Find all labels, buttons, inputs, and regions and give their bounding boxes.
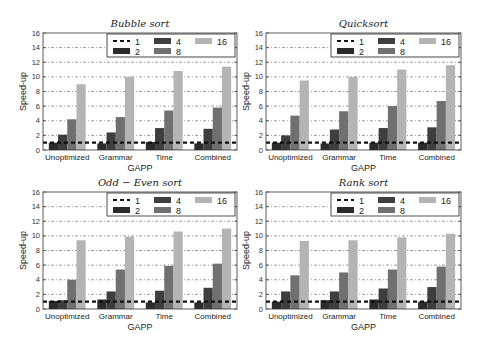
y-tick-label: 2 [259, 131, 263, 140]
bar-8-time [164, 111, 173, 150]
legend-swatch-16 [419, 197, 436, 203]
legend-swatch-4 [378, 38, 395, 44]
y-tick-label: 14 [255, 202, 263, 211]
legend-label-1: 1 [359, 37, 364, 47]
legend: 124816 [107, 193, 235, 216]
legend-swatch-4 [154, 197, 171, 203]
bar-16-combined [446, 65, 455, 150]
chart-panel-1: Bubble sort0246810121416UnoptimizedGramm… [18, 18, 237, 173]
bar-16-grammar [348, 240, 357, 309]
x-axis-label: GAPP [127, 322, 152, 332]
x-tick-label: Unoptimized [268, 312, 312, 321]
x-tick-label: Grammar [322, 312, 356, 321]
legend-label-8: 8 [400, 47, 405, 57]
x-tick-label: Combined [195, 312, 231, 321]
bar-16-combined [222, 67, 231, 150]
legend-swatch-2 [113, 207, 130, 213]
y-tick-label: 6 [259, 102, 263, 111]
chart-panel-3: Odd − Even sort0246810121416UnoptimizedG… [18, 177, 237, 332]
y-tick-label: 12 [32, 58, 40, 67]
x-tick-label: Combined [418, 153, 454, 162]
bar-8-grammar [116, 117, 125, 150]
bar-8-time [388, 270, 397, 309]
x-tick-label: Unoptimized [45, 312, 89, 321]
y-tick-label: 4 [259, 275, 263, 284]
legend-label-16: 16 [441, 196, 451, 206]
x-tick-label: Grammar [99, 312, 133, 321]
legend-label-4: 4 [176, 196, 181, 206]
y-tick-label: 8 [36, 87, 40, 96]
x-tick-label: Grammar [322, 153, 356, 162]
legend-label-2: 2 [135, 206, 140, 216]
x-axis-label: GAPP [127, 163, 152, 173]
legend-label-1: 1 [135, 196, 140, 206]
y-tick-label: 14 [255, 43, 263, 52]
bar-4-grammar [330, 291, 339, 309]
y-tick-label: 2 [36, 131, 40, 140]
y-tick-label: 2 [259, 290, 263, 299]
legend-label-1: 1 [135, 37, 140, 47]
bar-8-grammar [339, 111, 348, 150]
chart-title: Quicksort [339, 18, 389, 29]
legend-label-1: 1 [359, 196, 364, 206]
y-tick-label: 14 [32, 43, 40, 52]
y-tick-label: 16 [255, 29, 263, 38]
legend-swatch-8 [154, 48, 171, 54]
bar-2-combined [194, 302, 203, 309]
x-tick-label: Time [379, 312, 397, 321]
bar-8-unoptimized [67, 119, 76, 150]
bar-16-time [397, 70, 406, 150]
chart-title: Bubble sort [110, 18, 171, 29]
bar-4-time [379, 289, 388, 309]
y-tick-label: 6 [36, 102, 40, 111]
chart-panel-2: Quicksort0246810121416UnoptimizedGrammar… [241, 18, 461, 173]
y-tick-label: 12 [32, 217, 40, 226]
bar-4-grammar [107, 132, 116, 150]
legend-label-8: 8 [400, 206, 405, 216]
bar-4-unoptimized [281, 291, 290, 309]
bar-16-grammar [125, 77, 134, 150]
y-tick-label: 0 [259, 305, 263, 314]
legend-label-2: 2 [359, 47, 364, 57]
bar-16-combined [222, 229, 231, 309]
y-tick-label: 6 [259, 261, 263, 270]
x-axis-label: GAPP [351, 163, 376, 173]
bar-4-combined [427, 127, 436, 150]
legend: 124816 [107, 34, 235, 57]
y-tick-label: 2 [36, 290, 40, 299]
bar-16-time [397, 237, 406, 309]
legend-swatch-16 [195, 38, 212, 44]
bar-16-grammar [125, 237, 134, 309]
bar-4-grammar [330, 130, 339, 150]
y-tick-label: 10 [32, 231, 40, 240]
legend-swatch-2 [113, 48, 130, 54]
y-axis-label: Speed-up [18, 231, 28, 270]
y-tick-label: 10 [255, 231, 263, 240]
bar-8-grammar [116, 270, 125, 309]
legend-swatch-4 [378, 197, 395, 203]
x-tick-label: Unoptimized [268, 153, 312, 162]
y-tick-label: 4 [36, 116, 40, 125]
bar-2-grammar [97, 143, 106, 150]
bar-16-grammar [348, 77, 357, 150]
y-tick-label: 10 [255, 72, 263, 81]
chart-title: Rank sort [338, 177, 389, 188]
x-axis-label: GAPP [351, 322, 376, 332]
bar-8-unoptimized [290, 116, 299, 150]
bar-4-combined [427, 287, 436, 309]
bar-2-grammar [321, 143, 330, 150]
x-tick-label: Grammar [99, 153, 133, 162]
bar-4-time [379, 128, 388, 150]
bar-4-time [155, 128, 164, 150]
y-axis-label: Speed-up [18, 72, 28, 111]
bar-4-time [155, 291, 164, 309]
legend-swatch-2 [337, 48, 354, 54]
x-tick-label: Time [156, 153, 174, 162]
x-tick-label: Combined [418, 312, 454, 321]
legend-label-4: 4 [400, 37, 405, 47]
y-tick-label: 8 [259, 87, 263, 96]
bar-16-time [173, 231, 182, 309]
bar-4-combined [204, 129, 213, 150]
y-tick-label: 16 [255, 188, 263, 197]
legend-label-16: 16 [217, 196, 227, 206]
